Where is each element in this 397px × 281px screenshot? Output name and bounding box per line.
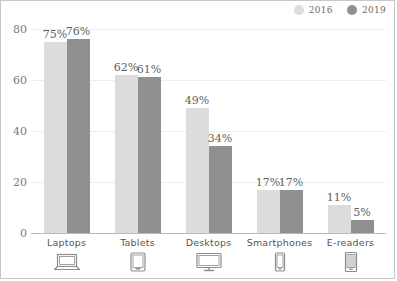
category-desktops[interactable]: Desktops — [173, 237, 244, 273]
y-axis-tick-0: 0 — [20, 227, 27, 240]
bar-tablets-2019[interactable]: 61% — [138, 77, 161, 233]
chart-container: 20162019 020406080 75%76%62%61%49%34%17%… — [0, 0, 395, 279]
legend-label: 2019 — [362, 5, 386, 15]
y-axis-tick-40: 40 — [13, 125, 27, 138]
laptop-icon — [52, 251, 82, 273]
x-axis-line — [31, 233, 386, 234]
legend-item-2019[interactable]: 2019 — [347, 5, 386, 15]
bar-e-readers-2019[interactable]: 5% — [351, 220, 374, 233]
bar-value-label: 49% — [185, 94, 209, 107]
bar-value-label: 5% — [353, 206, 370, 219]
desktop-monitor-icon — [194, 251, 224, 273]
bar-group-laptops: 75%76% — [44, 29, 90, 233]
bar-group-desktops: 49%34% — [186, 29, 232, 233]
category-label: E-readers — [315, 237, 386, 248]
y-axis-tick-80: 80 — [13, 23, 27, 36]
bar-smartphones-2016[interactable]: 17% — [257, 190, 280, 233]
plot-area: 75%76%62%61%49%34%17%17%11%5% — [31, 29, 386, 233]
bar-value-label: 17% — [256, 176, 280, 189]
category-label: Tablets — [102, 237, 173, 248]
legend-item-2016[interactable]: 2016 — [294, 5, 333, 15]
bar-value-label: 76% — [66, 25, 90, 38]
y-axis-tick-60: 60 — [13, 74, 27, 87]
bar-tablets-2016[interactable]: 62% — [115, 75, 138, 233]
category-label: Smartphones — [244, 237, 315, 248]
bar-group-tablets: 62%61% — [115, 29, 161, 233]
bar-value-label: 17% — [279, 176, 303, 189]
circle-marker-2016 — [294, 5, 304, 15]
bar-pair: 11%5% — [328, 29, 374, 233]
bar-smartphones-2019[interactable]: 17% — [280, 190, 303, 233]
legend-label: 2016 — [309, 5, 333, 15]
bar-desktops-2019[interactable]: 34% — [209, 146, 232, 233]
bar-pair: 75%76% — [44, 29, 90, 233]
bar-value-label: 61% — [137, 63, 161, 76]
bar-value-label: 75% — [43, 28, 67, 41]
bar-value-label: 62% — [114, 61, 138, 74]
tablet-icon — [127, 251, 149, 273]
bar-pair: 17%17% — [257, 29, 303, 233]
y-axis: 020406080 — [1, 1, 27, 261]
bar-pair: 49%34% — [186, 29, 232, 233]
smartphone-icon — [271, 251, 289, 273]
e-reader-icon — [342, 251, 360, 273]
bar-laptops-2016[interactable]: 75% — [44, 42, 67, 233]
category-e-readers[interactable]: E-readers — [315, 237, 386, 273]
bar-value-label: 11% — [327, 191, 351, 204]
bar-group-smartphones: 17%17% — [257, 29, 303, 233]
category-tablets[interactable]: Tablets — [102, 237, 173, 273]
bar-laptops-2019[interactable]: 76% — [67, 39, 90, 233]
category-laptops[interactable]: Laptops — [31, 237, 102, 273]
category-label: Desktops — [173, 237, 244, 248]
bar-desktops-2016[interactable]: 49% — [186, 108, 209, 233]
y-axis-tick-20: 20 — [13, 176, 27, 189]
chart-legend: 20162019 — [294, 5, 386, 15]
category-label: Laptops — [31, 237, 102, 248]
circle-marker-2019 — [347, 5, 357, 15]
bar-pair: 62%61% — [115, 29, 161, 233]
bar-e-readers-2016[interactable]: 11% — [328, 205, 351, 233]
category-smartphones[interactable]: Smartphones — [244, 237, 315, 273]
bar-group-e-readers: 11%5% — [328, 29, 374, 233]
bar-value-label: 34% — [208, 132, 232, 145]
